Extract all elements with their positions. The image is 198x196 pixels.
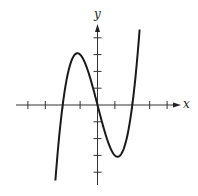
cubic-function-graph: [0, 0, 198, 196]
x-axis-label: x: [183, 97, 190, 111]
axes: [16, 24, 181, 185]
y-axis-label: y: [94, 7, 101, 21]
